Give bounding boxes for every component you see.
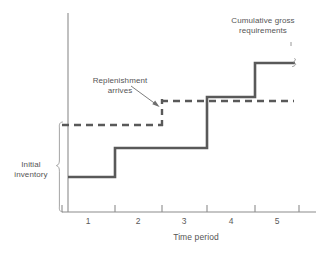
x-tick-label-5: 5 (270, 216, 284, 226)
x-tick-label-2: 2 (131, 216, 145, 226)
replenishment-label-line2: arrives (108, 86, 133, 95)
initial-inventory-line2: inventory (14, 170, 47, 179)
inventory-on-hand-dashed-line (62, 99, 294, 126)
x-axis-title: Time period (148, 232, 244, 242)
initial-inventory-brace (56, 122, 62, 212)
replenishment-arrow-head (152, 101, 159, 107)
cumulative-label-line2: requirements (239, 26, 287, 35)
x-tick-label-4: 4 (224, 216, 238, 226)
x-tick-label-3: 3 (177, 216, 191, 226)
replenishment-arrives-label: Replenishment arrives (74, 76, 166, 96)
cumulative-label-line1: Cumulative gross (231, 16, 294, 25)
initial-inventory-label: Initial inventory (8, 160, 54, 180)
x-axis-ticks (62, 205, 299, 212)
initial-inventory-line1: Initial (21, 160, 40, 169)
replenishment-label-line1: Replenishment (93, 76, 148, 85)
cumulative-gross-requirements-label: Cumulative gross requirements (215, 16, 311, 36)
x-tick-label-1: 1 (81, 216, 95, 226)
